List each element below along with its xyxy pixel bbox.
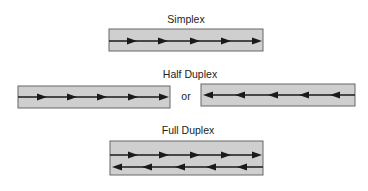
half-duplex-channel-forward — [18, 86, 170, 108]
transmission-modes-diagram — [0, 0, 368, 191]
full-duplex-channel — [110, 141, 263, 175]
simplex-channel — [109, 29, 263, 51]
half-duplex-channel-reverse — [201, 84, 355, 106]
